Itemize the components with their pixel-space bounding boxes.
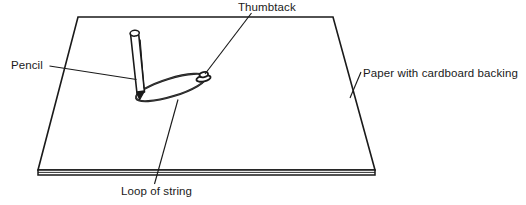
paper-top-face xyxy=(38,17,375,170)
thumbtack-head xyxy=(199,71,208,78)
label-thumbtack: Thumbtack xyxy=(238,1,296,14)
paper-sheet xyxy=(38,17,375,175)
label-pencil: Pencil xyxy=(11,59,43,72)
pencil-eraser-end xyxy=(130,30,140,37)
label-loop-of-string: Loop of string xyxy=(121,185,192,198)
diagram-canvas: Thumbtack Pencil Paper with cardboard ba… xyxy=(0,0,526,205)
label-paper-with-cardboard-backing: Paper with cardboard backing xyxy=(363,67,518,80)
diagram-illustration xyxy=(0,0,526,205)
